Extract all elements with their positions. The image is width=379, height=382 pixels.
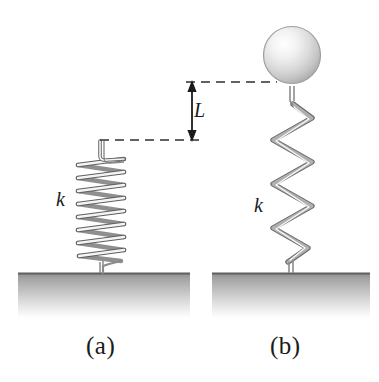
- spring-constant-label-b: k: [254, 195, 263, 215]
- ground-left: [18, 273, 190, 318]
- ground-right: [212, 273, 370, 318]
- ball-mass: [264, 27, 321, 84]
- extension-length-label: L: [194, 100, 205, 120]
- spring-constant-label-a: k: [56, 189, 65, 209]
- spring-a: [78, 141, 124, 273]
- spring-figure: k k L (a) (b): [0, 0, 379, 382]
- spring-b: [273, 86, 312, 273]
- panel-caption-b: (b): [270, 333, 301, 358]
- panel-caption-a: (a): [86, 333, 115, 358]
